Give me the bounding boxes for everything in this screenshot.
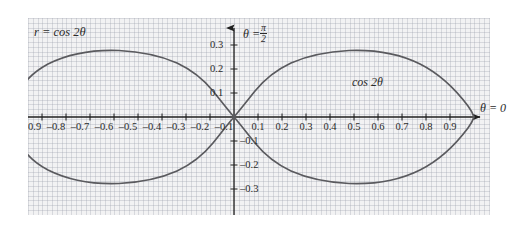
x-tick-label: 0.4 xyxy=(323,122,336,133)
theta-zero-axis-label: θ = 0 xyxy=(480,102,506,114)
x-tick-label: –0.7 xyxy=(71,122,89,133)
x-tick-label: 0.5 xyxy=(347,122,360,133)
x-tick-label: 0.7 xyxy=(395,122,408,133)
theta-half-pi-prefix: θ = xyxy=(243,27,260,41)
plot-panel: –0.1 –0.2 –0.3 –0.4 –0.5 –0.6 –0.7 –0.8 … xyxy=(28,18,490,215)
x-tick-label: 0.1 xyxy=(251,122,264,133)
equation-label: r = cos 2θ xyxy=(34,26,86,39)
y-tick-label: –0.2 xyxy=(240,160,258,171)
y-tick-label: 0.3 xyxy=(210,40,223,51)
x-tick-label: –0.6 xyxy=(95,122,113,133)
x-tick-label: 0.6 xyxy=(371,122,384,133)
x-tick-label: 0.3 xyxy=(299,122,312,133)
y-tick-label: –0.1 xyxy=(240,136,258,147)
x-tick-label: –0.1 xyxy=(215,122,233,133)
x-tick-label: –0.5 xyxy=(119,122,137,133)
x-tick-label: –0.4 xyxy=(143,122,161,133)
fraction-denominator: 2 xyxy=(260,34,267,44)
curve-annotation-label: cos 2θ xyxy=(352,76,383,88)
x-tick-label: 0.9 xyxy=(443,122,456,133)
x-tick-label: –0.3 xyxy=(167,122,185,133)
pi-over-two-fraction: π2 xyxy=(260,23,267,44)
x-tick-label: 0.2 xyxy=(275,122,288,133)
polar-curve-figure: –0.1 –0.2 –0.3 –0.4 –0.5 –0.6 –0.7 –0.8 … xyxy=(0,0,514,232)
x-tick-label: –0.9 xyxy=(28,122,41,133)
y-tick-label: 0.1 xyxy=(210,88,223,99)
theta-half-pi-axis-label: θ =π2 xyxy=(243,23,267,44)
y-tick-label: –0.3 xyxy=(240,184,258,195)
x-tick-label: –0.2 xyxy=(191,122,209,133)
x-axis xyxy=(28,114,480,121)
plot-canvas xyxy=(28,18,490,215)
y-tick-label: 0.2 xyxy=(210,64,223,75)
x-tick-label: 0.8 xyxy=(419,122,432,133)
x-tick-label: –0.8 xyxy=(47,122,65,133)
